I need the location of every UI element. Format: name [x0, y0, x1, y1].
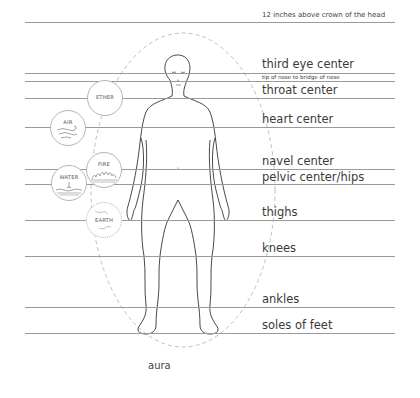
level-label-third-eye: third eye center — [262, 59, 354, 71]
level-line-knees — [25, 256, 395, 257]
level-label-nose: tip of nose to bridge of nose — [262, 75, 340, 81]
aura-label: aura — [148, 360, 171, 371]
element-earth: EARTH — [86, 202, 122, 238]
level-label-ankles: ankles — [262, 294, 299, 306]
level-line-nose — [25, 81, 395, 82]
level-label-heart: heart center — [262, 114, 333, 126]
level-label-knees: knees — [262, 243, 296, 255]
globe-icon — [87, 203, 121, 237]
level-label-soles: soles of feet — [262, 320, 332, 332]
element-air: AIR — [50, 110, 86, 146]
level-line-throat — [25, 98, 395, 99]
level-label-navel: navel center — [262, 156, 334, 168]
flame-icon — [87, 153, 121, 187]
level-line-crown — [25, 22, 395, 23]
element-water: WATER — [51, 165, 87, 201]
wind-icon — [51, 111, 85, 145]
element-ether-label: ETHER — [88, 94, 122, 100]
level-label-throat: throat center — [262, 85, 338, 97]
level-line-soles — [25, 333, 395, 334]
level-label-pelvic: pelvic center/hips — [262, 172, 364, 184]
level-line-ankles — [25, 307, 395, 308]
element-fire: FIRE — [86, 152, 122, 188]
chakra-body-diagram: 12 inches above crown of the head third … — [0, 0, 420, 398]
element-ether: ETHER — [87, 80, 123, 116]
level-line-thighs — [25, 220, 395, 221]
water-drop-icon — [52, 166, 86, 200]
level-label-thighs: thighs — [262, 207, 298, 219]
human-figure-icon — [127, 55, 229, 334]
level-label-crown: 12 inches above crown of the head — [262, 12, 385, 19]
